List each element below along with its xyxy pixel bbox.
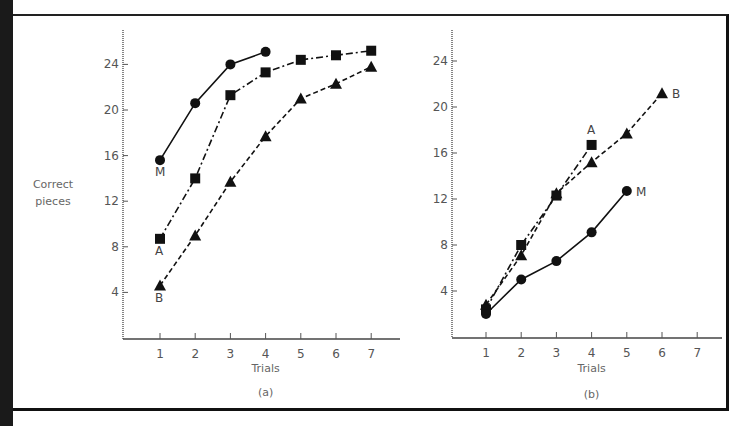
x-tick-label: 4 (588, 346, 596, 360)
marker-triangle (330, 78, 342, 89)
series-line-m (160, 52, 266, 160)
x-tick-label: 1 (482, 346, 490, 360)
marker-triangle (365, 61, 377, 72)
marker-square (225, 90, 235, 100)
marker-square (155, 234, 165, 244)
marker-triangle (154, 280, 166, 291)
x-tick-label: 7 (693, 346, 701, 360)
marker-circle (587, 227, 597, 237)
x-tick-label: 2 (191, 347, 199, 361)
panel-label: (a) (258, 386, 273, 399)
marker-circle (225, 59, 235, 69)
marker-circle (516, 275, 526, 285)
x-tick-label: 3 (227, 347, 235, 361)
x-tick-label: 6 (332, 347, 340, 361)
marker-triangle (260, 130, 272, 141)
marker-square (366, 46, 376, 56)
marker-triangle (295, 93, 307, 104)
y-axis-title: pieces (35, 195, 71, 208)
x-tick-label: 2 (517, 346, 525, 360)
y-tick-label: 16 (433, 146, 448, 160)
x-tick-label: 7 (367, 347, 375, 361)
panel-label: (b) (584, 388, 600, 401)
marker-circle (551, 256, 561, 266)
y-tick-label: 20 (104, 103, 119, 117)
y-tick-label: 24 (104, 57, 119, 71)
y-tick-label: 4 (111, 285, 119, 299)
y-tick-label: 8 (111, 240, 119, 254)
series-label-a: A (155, 244, 164, 258)
series-line-b (486, 93, 662, 305)
marker-triangle (656, 87, 668, 98)
x-tick-label: 1 (156, 347, 164, 361)
y-tick-label: 16 (104, 149, 119, 163)
marker-square (190, 173, 200, 183)
series-label-m: M (636, 185, 646, 199)
x-axis-title: Trials (250, 362, 279, 375)
x-tick-label: 3 (553, 346, 561, 360)
marker-square (587, 140, 597, 150)
marker-triangle (480, 299, 492, 310)
series-line-a (160, 51, 371, 239)
marker-circle (261, 47, 271, 57)
marker-circle (622, 186, 632, 196)
y-tick-label: 12 (104, 194, 119, 208)
series-label-b: B (672, 87, 680, 101)
marker-square (296, 55, 306, 65)
series-line-m (486, 191, 627, 314)
marker-triangle (189, 229, 201, 240)
series-label-a: A (587, 123, 596, 137)
panel-b: 48121620241234567Trials(b)MAB (433, 30, 722, 401)
series-label-b: B (155, 291, 163, 305)
x-tick-label: 5 (297, 347, 305, 361)
marker-circle (155, 155, 165, 165)
y-tick-label: 4 (440, 284, 448, 298)
learning-curves-chart: Correctpieces48121620241234567Trials(a)M… (0, 0, 736, 426)
series-label-m: M (155, 165, 165, 179)
y-tick-label: 8 (440, 238, 448, 252)
marker-triangle (621, 127, 633, 138)
marker-circle (190, 98, 200, 108)
marker-square (261, 67, 271, 77)
y-tick-label: 24 (433, 54, 448, 68)
series-line-a (486, 145, 592, 309)
y-axis-title: Correct (33, 178, 74, 191)
x-tick-label: 6 (658, 346, 666, 360)
y-tick-label: 12 (433, 192, 448, 206)
marker-square (331, 50, 341, 60)
x-axis-title: Trials (576, 362, 605, 375)
panel-a: 48121620241234567Trials(a)MAB (104, 30, 400, 399)
marker-triangle (515, 249, 527, 260)
x-tick-label: 4 (262, 347, 270, 361)
y-tick-label: 20 (433, 100, 448, 114)
x-tick-label: 5 (623, 346, 631, 360)
